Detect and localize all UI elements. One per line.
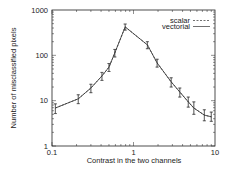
y-tick-label: 10 [40,96,48,105]
y-tick-label: 1000 [31,6,48,15]
x-axis-label: Contrast in the two channels [87,156,182,165]
series-lines [54,24,213,121]
y-axis-label: Number of misclassified pixels [9,27,18,128]
x-tick-label: 0.1 [47,148,57,157]
x-tick-label: 10 [211,148,219,157]
legend: scalar vectorial [162,16,210,31]
chart: 0.11101101001000 Number of misclassified… [0,0,226,174]
series-scalar [55,27,211,117]
series-vectorial [55,27,211,117]
plot-frame [52,10,215,146]
y-tick-label: 1 [44,142,48,151]
y-tick-label: 100 [35,51,48,60]
legend-label-vectorial: vectorial [162,22,190,31]
